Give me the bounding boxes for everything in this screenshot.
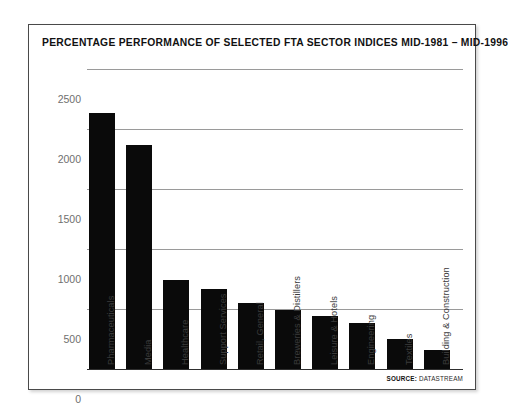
y-axis-tick-label: 500 bbox=[35, 334, 81, 344]
bar bbox=[126, 145, 152, 369]
y-axis-tick-label: 0 bbox=[35, 394, 81, 404]
bar-slot: Pharmaceuticals bbox=[89, 55, 115, 375]
bar-category-label: Building & Construction bbox=[442, 267, 451, 365]
bar-category-label: Textiles bbox=[405, 334, 414, 365]
bar-series: PharmaceuticalsMediaHealthcareSupport Se… bbox=[87, 55, 463, 375]
y-axis-tick-label: 1000 bbox=[35, 274, 81, 284]
source-credit: SOURCE: DATASTREAM bbox=[387, 375, 464, 382]
bar-category-label: Support Services bbox=[219, 293, 228, 365]
y-axis-tick-label: 1500 bbox=[35, 214, 81, 224]
bar-slot: Textiles bbox=[387, 55, 413, 375]
bar-slot: Building & Construction bbox=[424, 55, 450, 375]
bar-category-label: Healthcare bbox=[181, 320, 190, 365]
bar-slot: Leisure & Hotels bbox=[312, 55, 338, 375]
bar-slot: Support Services bbox=[201, 55, 227, 375]
y-axis: 05001000150020002500 bbox=[29, 55, 81, 375]
source-value: DATASTREAM bbox=[419, 375, 463, 382]
bar-category-label: Breweries & Distillers bbox=[293, 276, 302, 365]
y-axis-tick-label: 2000 bbox=[35, 154, 81, 164]
bar-slot: Healthcare bbox=[163, 55, 189, 375]
chart-panel: PERCENTAGE PERFORMANCE OF SELECTED FTA S… bbox=[28, 24, 476, 390]
chart-title: PERCENTAGE PERFORMANCE OF SELECTED FTA S… bbox=[42, 37, 467, 49]
bar-category-label: Leisure & Hotels bbox=[330, 296, 339, 365]
bar-slot: Breweries & Distillers bbox=[275, 55, 301, 375]
bar-category-label: Pharmaceuticals bbox=[107, 296, 116, 365]
bar-slot: Retail, General bbox=[238, 55, 264, 375]
source-label: SOURCE: bbox=[387, 375, 417, 382]
bar-category-label: Engineering bbox=[367, 315, 376, 365]
bar-category-label: Media bbox=[144, 339, 153, 365]
plot-area: PharmaceuticalsMediaHealthcareSupport Se… bbox=[87, 55, 463, 375]
y-axis-tick-label: 2500 bbox=[35, 94, 81, 104]
bar-category-label: Retail, General bbox=[256, 302, 265, 365]
bar-slot: Media bbox=[126, 55, 152, 375]
bar-slot: Engineering bbox=[349, 55, 375, 375]
